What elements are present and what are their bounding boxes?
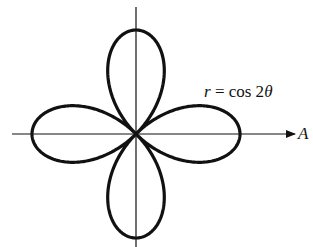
polar-axis-label: A xyxy=(298,124,308,144)
rose-diagram xyxy=(0,0,313,247)
equation-label: r = cos 2θ xyxy=(204,82,272,102)
